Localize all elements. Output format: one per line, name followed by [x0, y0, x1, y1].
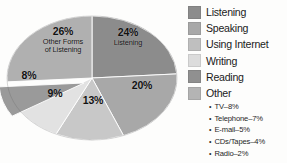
legend-item-label: Reading: [206, 71, 244, 83]
bullet-icon: •: [209, 150, 211, 157]
legend-swatch-icon: [188, 87, 201, 100]
legend-swatch-icon: [188, 6, 201, 19]
legend-item-other[interactable]: Other: [188, 85, 287, 101]
legend-item-speaking[interactable]: Speaking: [188, 20, 287, 36]
legend-item-using-internet[interactable]: Using Internet: [188, 36, 287, 52]
legend-item-label: Speaking: [206, 22, 248, 34]
legend-item-label: Using Internet: [206, 38, 268, 50]
legend-other-breakdown-list: • TV–8% • Telephone–7% • E-mail–5% • CDs…: [209, 102, 287, 160]
legend-subitem-cds-tapes: • CDs/Tapes–4%: [209, 137, 287, 149]
pie-chart-svg: [0, 0, 185, 163]
legend-subitem-label: TV–8%: [214, 102, 238, 111]
legend-swatch-icon: [188, 70, 201, 83]
legend-subitem-label: CDs/Tapes–4%: [214, 137, 265, 146]
pie-chart-area: 26% Other Forms of Listening 24% Listeni…: [0, 0, 185, 163]
legend-item-label: Writing: [206, 55, 237, 67]
legend-item-listening[interactable]: Listening: [188, 4, 287, 20]
bullet-icon: •: [209, 138, 211, 145]
legend-item-reading[interactable]: Reading: [188, 69, 287, 85]
legend-swatch-icon: [188, 54, 201, 67]
legend-subitem-email: • E-mail–5%: [209, 125, 287, 137]
chart-legend: Listening Speaking Using Internet Writin…: [188, 4, 287, 163]
legend-subitem-radio: • Radio–2%: [209, 149, 287, 161]
legend-swatch-icon: [188, 22, 201, 35]
legend-subitem-tv: • TV–8%: [209, 102, 287, 114]
legend-swatch-icon: [188, 38, 201, 51]
legend-item-label: Listening: [206, 6, 246, 18]
pie-slice-other-forms: [7, 16, 92, 82]
legend-subitem-telephone: • Telephone–7%: [209, 114, 287, 126]
bullet-icon: •: [209, 103, 211, 110]
legend-subitem-label: E-mail–5%: [214, 125, 249, 134]
legend-subitem-label: Radio–2%: [214, 149, 248, 158]
bullet-icon: •: [209, 115, 211, 122]
pie-chart-figure: 26% Other Forms of Listening 24% Listeni…: [0, 0, 287, 163]
legend-item-label: Other: [206, 87, 231, 99]
legend-item-writing[interactable]: Writing: [188, 53, 287, 69]
bullet-icon: •: [209, 126, 211, 133]
legend-subitem-label: Telephone–7%: [214, 114, 262, 123]
pie-slice-listening: [92, 16, 177, 78]
